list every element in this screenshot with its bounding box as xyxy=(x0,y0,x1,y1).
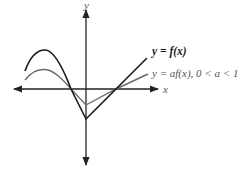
graph-diagram: y x y = f(x) y = af(x), 0 < a < 1 xyxy=(0,0,242,177)
curve-f-label: y = f(x) xyxy=(150,45,187,58)
x-axis-label: x xyxy=(162,83,168,95)
curve-af-label: y = af(x), 0 < a < 1 xyxy=(151,67,238,80)
y-axis-label: y xyxy=(83,0,89,11)
